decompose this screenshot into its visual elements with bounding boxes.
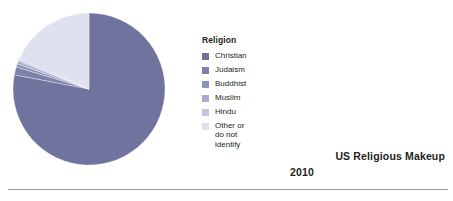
chart-title: US Religious Makeup — [185, 150, 445, 163]
legend-swatch-icon — [202, 53, 209, 60]
legend: Religion ChristianJudaismBuddhistMuslimH… — [202, 36, 282, 154]
title-block: US Religious Makeup 2010 — [185, 150, 445, 179]
pie-chart-area — [11, 11, 167, 167]
legend-item[interactable]: Judaism — [202, 65, 282, 74]
legend-swatch-icon — [202, 95, 209, 102]
legend-item[interactable]: Hindu — [202, 107, 282, 116]
legend-item-label: Hindu — [215, 107, 236, 116]
legend-item[interactable]: Muslim — [202, 93, 282, 102]
legend-items: ChristianJudaismBuddhistMuslimHinduOther… — [202, 51, 282, 149]
pie-chart-figure: Religion ChristianJudaismBuddhistMuslimH… — [0, 0, 453, 201]
legend-title: Religion — [202, 36, 282, 45]
chart-subtitle: 2010 — [185, 166, 445, 179]
legend-swatch-icon — [202, 81, 209, 88]
legend-swatch-icon — [202, 109, 209, 116]
legend-item-label: Christian — [215, 51, 247, 60]
pie-svg — [11, 11, 167, 167]
legend-swatch-icon — [202, 67, 209, 74]
bottom-divider — [8, 189, 448, 190]
legend-item[interactable]: Christian — [202, 51, 282, 60]
legend-item-label: Other or do not identify — [215, 121, 244, 149]
legend-swatch-icon — [202, 123, 209, 130]
pie-slices-group — [13, 13, 165, 165]
legend-item-label: Judaism — [215, 65, 245, 74]
legend-item[interactable]: Buddhist — [202, 79, 282, 88]
legend-item-label: Buddhist — [215, 79, 246, 88]
legend-item[interactable]: Other or do not identify — [202, 121, 282, 149]
legend-item-label: Muslim — [215, 93, 240, 102]
